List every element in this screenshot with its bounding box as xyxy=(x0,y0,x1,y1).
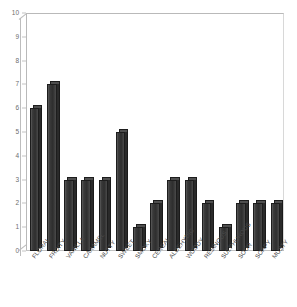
bar-top-face xyxy=(222,224,232,227)
bar[interactable] xyxy=(30,108,40,251)
bar-top-face xyxy=(274,200,284,203)
y-tick-label: 6 xyxy=(15,105,19,112)
bar-front-face xyxy=(202,203,212,251)
bar-side-face xyxy=(229,224,232,248)
bar-front-face xyxy=(185,180,195,251)
bar-side-face xyxy=(57,81,60,248)
bar[interactable] xyxy=(150,203,160,251)
bar[interactable] xyxy=(236,203,246,251)
bar[interactable] xyxy=(64,180,74,251)
y-tick-label: 10 xyxy=(12,10,19,17)
bar-side-face xyxy=(143,224,146,248)
bar[interactable] xyxy=(116,132,126,251)
bar-chart: 109876543210 FLORALFRUITYVANILLACARAMELN… xyxy=(0,0,297,307)
bar-front-face xyxy=(150,203,160,251)
bar-top-face xyxy=(67,177,77,180)
bar-side-face xyxy=(280,200,283,248)
y-tick-label: 1 xyxy=(15,224,19,231)
bar[interactable] xyxy=(185,180,195,251)
y-tick-label: 2 xyxy=(15,200,19,207)
bars-layer xyxy=(26,13,284,251)
bar[interactable] xyxy=(253,203,263,251)
bar-side-face xyxy=(194,177,197,248)
bar[interactable] xyxy=(167,180,177,251)
bar[interactable] xyxy=(99,180,109,251)
bar-top-face xyxy=(239,200,249,203)
bar-front-face xyxy=(30,108,40,251)
bar-side-face xyxy=(108,177,111,248)
bar[interactable] xyxy=(133,227,143,251)
bar[interactable] xyxy=(271,203,281,251)
bar-top-face xyxy=(50,81,60,84)
bar-front-face xyxy=(81,180,91,251)
y-tick-label: 5 xyxy=(15,129,19,136)
bar-top-face xyxy=(188,177,198,180)
bar-front-face xyxy=(133,227,143,251)
y-tick-label: 7 xyxy=(15,81,19,88)
y-tick-label: 8 xyxy=(15,57,19,64)
plot-area xyxy=(26,13,284,251)
bar-side-face xyxy=(246,200,249,248)
bar-side-face xyxy=(160,200,163,248)
bar-front-face xyxy=(116,132,126,251)
bar-side-face xyxy=(74,177,77,248)
bar-front-face xyxy=(99,180,109,251)
bar-top-face xyxy=(153,200,163,203)
bar-side-face xyxy=(177,177,180,248)
y-tick-label: 9 xyxy=(15,34,19,41)
bar-front-face xyxy=(253,203,263,251)
bar-top-face xyxy=(84,177,94,180)
bar-front-face xyxy=(64,180,74,251)
y-tick-label: 3 xyxy=(15,176,19,183)
bar-top-face xyxy=(205,200,215,203)
bar-front-face xyxy=(271,203,281,251)
bar[interactable] xyxy=(202,203,212,251)
y-tick-label: 4 xyxy=(15,153,19,160)
bar[interactable] xyxy=(47,84,57,251)
bar-top-face xyxy=(170,177,180,180)
bar-top-face xyxy=(136,224,146,227)
bar-top-face xyxy=(33,105,43,108)
bar-top-face xyxy=(256,200,266,203)
bar[interactable] xyxy=(219,227,229,251)
bar-side-face xyxy=(263,200,266,248)
bar-side-face xyxy=(39,105,42,248)
bar-side-face xyxy=(91,177,94,248)
bar[interactable] xyxy=(81,180,91,251)
bar-front-face xyxy=(167,180,177,251)
bar-top-face xyxy=(119,129,129,132)
bar-front-face xyxy=(47,84,57,251)
bar-side-face xyxy=(125,129,128,248)
bar-top-face xyxy=(102,177,112,180)
bar-front-face xyxy=(236,203,246,251)
bar-side-face xyxy=(211,200,214,248)
bar-front-face xyxy=(219,227,229,251)
